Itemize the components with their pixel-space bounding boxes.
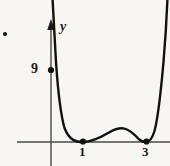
polynomial-curve [53, 0, 168, 142]
axis-label-y: y [60, 20, 66, 34]
math-figure: y 9 1 3 [0, 0, 170, 166]
x-tick-label-3: 3 [142, 145, 149, 158]
y-intercept-label: 9 [31, 62, 38, 76]
graph-canvas [0, 0, 170, 166]
x-tick-label-1: 1 [79, 145, 86, 158]
point-y-intercept [48, 67, 54, 73]
